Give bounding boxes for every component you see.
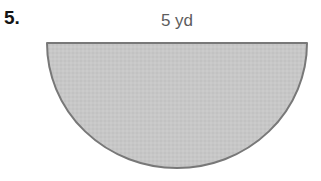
- geometry-figure: [44, 40, 312, 174]
- dimension-label-top: 5 yd: [47, 10, 307, 32]
- half-ellipse-shape: [44, 40, 312, 174]
- problem-number-label: 5.: [4, 6, 20, 30]
- figure-page: 5. 5 yd: [0, 0, 321, 181]
- half-ellipse-path: [47, 43, 307, 168]
